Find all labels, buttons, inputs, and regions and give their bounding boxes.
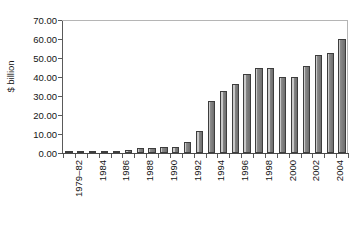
bar-chart: $ billion 0.0010.0020.0030.0040.0050.006… (0, 0, 364, 230)
bar (279, 77, 286, 153)
x-axis-tick-mark (324, 154, 325, 158)
bar (232, 84, 239, 153)
bar (208, 101, 215, 153)
x-axis-tick-label: 1990 (168, 160, 179, 181)
bar (327, 53, 334, 153)
x-axis-tick-label: 1979–82 (73, 160, 84, 197)
x-axis-tick-mark (348, 154, 349, 158)
x-axis-tick-label: 2002 (310, 160, 321, 181)
y-axis-tick-mark (58, 115, 62, 116)
bar (196, 131, 203, 153)
x-axis-tick-label: 2000 (287, 160, 298, 181)
x-axis-tick-label: 1986 (120, 160, 131, 181)
y-axis-title-text: $ billion (5, 60, 16, 92)
y-axis-tick-label: 10.00 (33, 129, 57, 140)
y-axis-tick-mark (58, 58, 62, 59)
x-axis-tick-label: 1998 (263, 160, 274, 181)
bar (315, 55, 322, 153)
x-axis-tick-mark (217, 154, 218, 158)
x-axis-tick-mark (122, 154, 123, 158)
x-axis-tick-mark (301, 154, 302, 158)
bar (338, 39, 345, 153)
bar (303, 66, 310, 153)
bar (255, 68, 262, 153)
x-axis-tick-mark (158, 154, 159, 158)
x-axis-tick-mark (229, 154, 230, 158)
y-axis-tick-mark (58, 39, 62, 40)
x-axis-tick-mark (206, 154, 207, 158)
x-axis-tick-label: 1994 (215, 160, 226, 181)
bar (243, 74, 250, 153)
x-axis-tick-mark (194, 154, 195, 158)
y-axis-tick-mark (58, 134, 62, 135)
bar (267, 68, 274, 153)
y-axis-tick-label: 70.00 (33, 15, 57, 26)
x-axis-tick-mark (134, 154, 135, 158)
bar (291, 77, 298, 153)
x-axis-tick-mark (99, 154, 100, 158)
y-axis-tick-label: 40.00 (33, 72, 57, 83)
x-axis-tick-mark (336, 154, 337, 158)
x-axis-tick-mark (63, 154, 64, 158)
bar (220, 91, 227, 154)
x-axis-tick-label: 2004 (334, 160, 345, 181)
x-axis-tick-label: 1992 (192, 160, 203, 181)
x-axis-tick-mark (312, 154, 313, 158)
bar (184, 142, 191, 153)
x-axis-tick-mark (265, 154, 266, 158)
x-axis-tick-label: 1996 (239, 160, 250, 181)
y-axis-tick-mark (58, 20, 62, 21)
plot-area (63, 20, 348, 153)
y-axis-tick-mark (58, 77, 62, 78)
x-axis-tick-mark (289, 154, 290, 158)
x-axis-tick-mark (241, 154, 242, 158)
y-axis-tick-label: 50.00 (33, 53, 57, 64)
x-axis-tick-mark (253, 154, 254, 158)
y-axis-tick-label: 20.00 (33, 110, 57, 121)
y-axis-tick-label: 60.00 (33, 34, 57, 45)
x-axis-tick-mark (182, 154, 183, 158)
x-axis-tick-mark (170, 154, 171, 158)
x-axis-tick-label: 1988 (144, 160, 155, 181)
y-axis-tick-label: 0.00 (39, 148, 58, 159)
y-axis-tick-mark (58, 153, 62, 154)
x-axis-tick-mark (111, 154, 112, 158)
x-axis-tick-mark (277, 154, 278, 158)
y-axis-tick-labels: 0.0010.0020.0030.0040.0050.0060.0070.00 (16, 14, 60, 154)
x-axis-tick-mark (87, 154, 88, 158)
x-axis-tick-mark (75, 154, 76, 158)
x-axis-tick-mark (146, 154, 147, 158)
y-axis-tick-mark (58, 96, 62, 97)
x-axis-tick-label: 1984 (97, 160, 108, 181)
y-axis-tick-label: 30.00 (33, 91, 57, 102)
